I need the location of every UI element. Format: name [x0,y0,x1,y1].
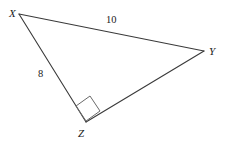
side-length-label-xz: 8 [38,69,43,80]
geometry-figure: X Y Z 10 8 [0,0,228,141]
side-zy-line [86,51,204,122]
side-length-label-xy: 10 [106,15,117,26]
right-angle-marker-icon [76,96,100,121]
vertex-label-x: X [9,8,16,19]
vertex-label-y: Y [209,46,215,57]
vertex-label-z: Z [78,128,84,139]
